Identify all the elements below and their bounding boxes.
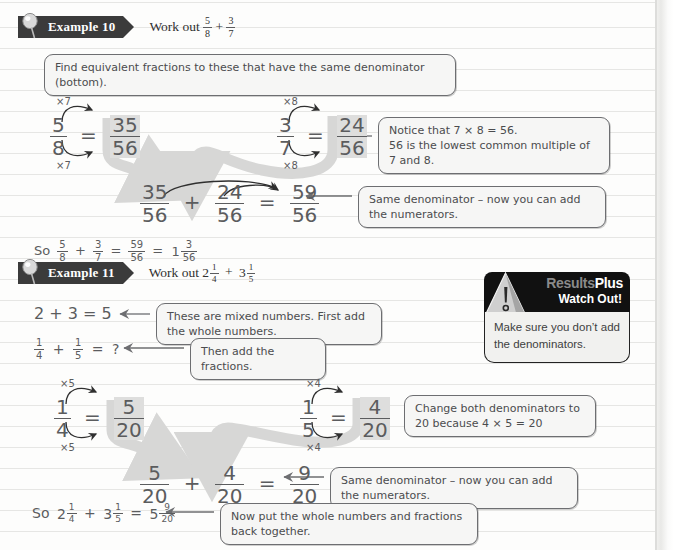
callout-line-2: 56 is the lowest common multiple of 7 an… bbox=[389, 138, 599, 168]
task-fraction-2: 3 7 bbox=[226, 16, 235, 39]
conclusion-ex10: So 5 8 + 3 7 = 59 56 = 1 3 56 bbox=[34, 240, 197, 263]
conversion-right-ex11: 1 5 = 4 20 bbox=[300, 397, 390, 440]
callout-text: Same denominator – now you can add the n… bbox=[369, 193, 581, 221]
mixed-a: 2 1 4 bbox=[57, 503, 77, 524]
results-plus-box: ResultsPlus Watch Out! Make sure you don… bbox=[484, 272, 630, 363]
multiplier-bottom-left-ex10: ×7 bbox=[56, 160, 71, 171]
banner-arrow-icon bbox=[123, 16, 134, 38]
pin-icon bbox=[21, 259, 43, 285]
fraction-from: 1 5 bbox=[300, 397, 317, 440]
fraction-to: 4 20 bbox=[360, 397, 389, 440]
callout-line-1: Notice that 7 × 8 = 56. bbox=[389, 123, 599, 138]
fraction-b: 4 20 bbox=[215, 463, 244, 506]
fraction-from: 3 7 bbox=[277, 115, 294, 158]
whole-part: 1 bbox=[171, 244, 179, 259]
task-mixed-1: 2 1 4 bbox=[202, 263, 218, 284]
task-operator: + bbox=[225, 264, 233, 279]
fraction-to: 24 56 bbox=[337, 115, 366, 158]
fraction-a: 5 20 bbox=[140, 463, 169, 506]
callout-change-denominators: Change both denominators to 20 because 4… bbox=[404, 395, 596, 437]
example-10-label: Example 10 bbox=[48, 19, 115, 35]
example-11-task: Work out 2 1 4 + 3 1 5 bbox=[149, 263, 256, 284]
callout-text: Then add the fractions. bbox=[201, 345, 274, 373]
mixed-result: 5 9 20 bbox=[150, 503, 175, 524]
callout-line-1: Change both denominators to bbox=[415, 401, 585, 416]
fraction-to: 5 20 bbox=[114, 397, 143, 440]
multiplier-top-right-ex10: ×8 bbox=[283, 96, 298, 107]
operator: + bbox=[184, 190, 201, 214]
equals-sign: = bbox=[130, 505, 142, 521]
callout-then-add-fractions: Then add the fractions. bbox=[190, 338, 326, 380]
multiplier-top-left-ex10: ×7 bbox=[56, 96, 71, 107]
fraction-b: 24 56 bbox=[215, 182, 244, 225]
mixed-b: 3 1 5 bbox=[103, 503, 123, 524]
example-11-label: Example 11 bbox=[48, 265, 115, 281]
sum-line-ex11: 5 20 + 4 20 = 9 20 bbox=[140, 463, 319, 506]
fraction-to: 35 56 bbox=[110, 115, 139, 158]
callout-same-denominator-ex10: Same denominator – now you can add the n… bbox=[358, 186, 606, 228]
task-fraction-1: 5 8 bbox=[203, 16, 212, 39]
conversion-left-ex11: 1 4 = 5 20 bbox=[54, 397, 144, 440]
operator: + bbox=[75, 243, 86, 258]
fraction-a: 1 4 bbox=[34, 338, 44, 361]
fraction-a: 35 56 bbox=[140, 182, 169, 225]
conclusion-ex11: So 2 1 4 + 3 1 5 = 5 9 20 bbox=[32, 503, 175, 524]
fraction-result: 9 20 bbox=[290, 463, 319, 506]
brand-results: Results bbox=[546, 275, 594, 291]
conversion-right-ex10: 3 7 = 24 56 bbox=[277, 115, 367, 158]
task-text: Work out bbox=[149, 264, 199, 279]
callout-line-2: 20 because 4 × 5 = 20 bbox=[415, 416, 585, 431]
equals-sign: = bbox=[92, 341, 104, 357]
sum-line-ex10: 35 56 + 24 56 = 59 56 bbox=[140, 182, 319, 225]
callout-text: Same denominator – now you can add the n… bbox=[341, 474, 553, 502]
example-10-task: Work out 5 8 + 3 7 bbox=[149, 16, 235, 39]
body-line-1: Make sure you don’t add bbox=[494, 319, 620, 336]
brand-plus: Plus bbox=[595, 275, 623, 291]
operator: + bbox=[53, 341, 65, 357]
callout-text: Now put the whole numbers and fractions … bbox=[231, 510, 462, 538]
fraction-from: 5 8 bbox=[50, 115, 67, 158]
banner-arrow-icon bbox=[123, 262, 134, 284]
task-text: Work out bbox=[149, 18, 199, 33]
whole-numbers-line-ex11: 2 + 3 = 5 bbox=[34, 304, 112, 323]
example-10-tag: Example 10 bbox=[18, 16, 123, 38]
callout-text: Find equivalent fractions to these that … bbox=[55, 61, 425, 89]
conversion-left-ex10: 5 8 = 35 56 bbox=[50, 115, 140, 158]
results-plus-header: ResultsPlus Watch Out! bbox=[484, 272, 630, 312]
multiplier-top-left-ex11: ×5 bbox=[60, 378, 75, 389]
equals-sign: = bbox=[259, 190, 276, 214]
textbook-page: Example 10 Work out 5 8 + 3 7 Find equiv… bbox=[0, 0, 682, 550]
multiplier-bottom-right-ex10: ×8 bbox=[283, 160, 298, 171]
fraction-a: 5 8 bbox=[57, 240, 67, 263]
conclusion-prefix: So bbox=[34, 243, 50, 258]
conclusion-prefix: So bbox=[32, 505, 49, 521]
fractions-question-ex11: 1 4 + 1 5 = ? bbox=[34, 338, 119, 361]
pin-icon bbox=[21, 13, 43, 39]
equals-sign-1: = bbox=[110, 243, 121, 258]
callout-lowest-common-multiple: Notice that 7 × 8 = 56. 56 is the lowest… bbox=[378, 117, 610, 174]
fraction-part: 3 56 bbox=[181, 240, 198, 263]
equals-sign: = bbox=[330, 405, 347, 429]
results-plus-subtitle: Watch Out! bbox=[558, 292, 622, 306]
unknown-result: ? bbox=[112, 341, 119, 357]
equals-sign: = bbox=[80, 123, 97, 147]
results-plus-body: Make sure you don’t add the denominators… bbox=[484, 312, 630, 363]
callout-find-equivalent-fractions: Find equivalent fractions to these that … bbox=[44, 54, 456, 96]
fraction-b: 1 5 bbox=[73, 338, 83, 361]
page-edge bbox=[655, 0, 682, 550]
task-mixed-2: 3 1 5 bbox=[239, 263, 255, 284]
multiplier-bottom-right-ex11: ×4 bbox=[306, 442, 321, 453]
body-line-2: the denominators. bbox=[494, 336, 620, 353]
example-10-banner: Example 10 Work out 5 8 + 3 7 bbox=[18, 16, 235, 38]
callout-text: These are mixed numbers. First add the w… bbox=[167, 310, 365, 338]
fraction-result: 59 56 bbox=[290, 182, 319, 225]
operator: + bbox=[184, 471, 201, 495]
callout-put-back-together: Now put the whole numbers and fractions … bbox=[220, 503, 478, 545]
equals-sign: = bbox=[259, 471, 276, 495]
equals-sign: = bbox=[307, 123, 324, 147]
fraction-from: 1 4 bbox=[54, 397, 71, 440]
multiplier-top-right-ex11: ×4 bbox=[306, 378, 321, 389]
example-11-tag: Example 11 bbox=[18, 262, 123, 284]
operator: + bbox=[84, 505, 96, 521]
fraction-improper: 59 56 bbox=[128, 240, 145, 263]
